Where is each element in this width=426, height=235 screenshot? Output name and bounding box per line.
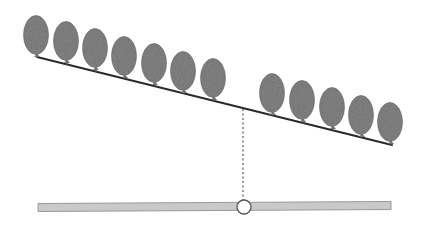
balloon-left xyxy=(112,37,137,79)
balloon-right xyxy=(260,74,285,116)
balloon-body xyxy=(201,59,226,98)
balloon-body xyxy=(320,88,345,127)
balloon-left xyxy=(201,59,226,101)
balloon-body xyxy=(171,52,196,91)
balloon-body xyxy=(378,103,403,142)
balloon-body xyxy=(290,81,315,120)
balance-diagram xyxy=(0,0,426,235)
balloon-body xyxy=(83,29,108,68)
balloon-left xyxy=(171,52,196,94)
balloon-right xyxy=(349,96,374,138)
diagram-canvas xyxy=(0,0,426,235)
balloon-body xyxy=(24,16,49,55)
pivot-circle xyxy=(237,200,251,214)
balloon-body xyxy=(142,44,167,83)
balloon-left xyxy=(54,22,79,65)
balloon-left xyxy=(24,16,49,58)
base-bar xyxy=(38,202,391,212)
balloon-group xyxy=(24,16,403,145)
balloon-left xyxy=(83,29,108,72)
balloon-body xyxy=(349,96,374,135)
balloon-body xyxy=(260,74,285,113)
balloon-right xyxy=(320,88,345,131)
balloon-left xyxy=(142,44,167,87)
base-bar-group xyxy=(38,202,391,212)
balloon-body xyxy=(54,22,79,61)
balloon-right xyxy=(290,81,315,123)
balloon-body xyxy=(112,37,137,76)
balloon-right xyxy=(378,103,403,145)
